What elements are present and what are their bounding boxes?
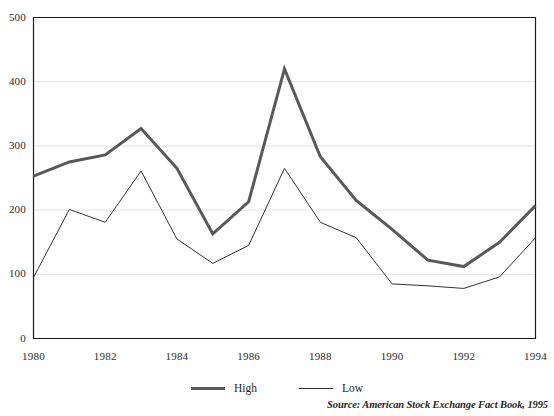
y-tick-label-0: 0 — [0, 332, 26, 344]
legend-item-low[interactable]: Low — [299, 382, 363, 394]
legend-label-high: High — [234, 382, 257, 394]
line-chart: 0100200300400500 19801982198419861988199… — [0, 0, 554, 416]
x-tick-label-1990: 1990 — [367, 350, 417, 362]
x-tick-label-1992: 1992 — [439, 350, 489, 362]
x-tick-label-1988: 1988 — [295, 350, 345, 362]
y-tick-label-300: 300 — [0, 139, 26, 151]
x-tick-label-1994: 1994 — [511, 350, 554, 362]
y-tick-label-500: 500 — [0, 11, 26, 23]
x-tick-label-1986: 1986 — [224, 350, 274, 362]
x-tick-label-1982: 1982 — [80, 350, 130, 362]
legend-label-low: Low — [342, 382, 363, 394]
legend-swatch-low-icon — [299, 388, 333, 389]
legend-item-high[interactable]: High — [191, 382, 257, 394]
y-tick-label-100: 100 — [0, 267, 26, 279]
y-tick-label-200: 200 — [0, 203, 26, 215]
x-tick-label-1984: 1984 — [152, 350, 202, 362]
chart-legend: High Low — [0, 382, 554, 394]
legend-swatch-high-icon — [191, 387, 225, 390]
y-tick-label-400: 400 — [0, 75, 26, 87]
source-note: Source: American Stock Exchange Fact Boo… — [327, 399, 548, 410]
x-tick-label-1980: 1980 — [9, 350, 59, 362]
series-line-low — [34, 168, 536, 288]
